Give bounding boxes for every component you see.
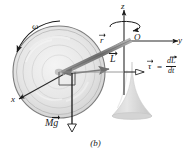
pedestal-stand — [112, 62, 152, 119]
fraction-numerator: dL — [166, 57, 176, 65]
gyroscope-precession-figure: z y x O ω r L Mg — [0, 0, 191, 160]
L-vector-label: L — [110, 54, 116, 64]
precession-arrow — [110, 21, 140, 31]
torque-equation-fraction: dL dt — [166, 57, 176, 75]
torque-label: τ — [148, 62, 151, 71]
figure-caption: (b) — [0, 138, 191, 148]
x-axis-label: x — [11, 95, 15, 104]
weight-label: Mg — [45, 118, 58, 128]
z-axis-label: z — [121, 2, 125, 11]
torque-symbol: τ — [148, 61, 151, 71]
dL-symbol: dL — [167, 56, 175, 65]
mass-symbol: M — [45, 117, 53, 128]
origin-label: O — [134, 33, 141, 42]
gravity-symbol: g — [53, 117, 58, 128]
r-vector-symbol: r — [100, 35, 104, 45]
equals-sign: = — [157, 63, 162, 72]
r-vector-label: r — [100, 36, 104, 45]
y-axis-label: y — [178, 36, 182, 45]
fraction-denominator: dt — [166, 67, 176, 75]
omega-label: ω — [32, 22, 38, 31]
L-vector-symbol: L — [110, 53, 116, 64]
figure-drawing — [0, 0, 191, 160]
